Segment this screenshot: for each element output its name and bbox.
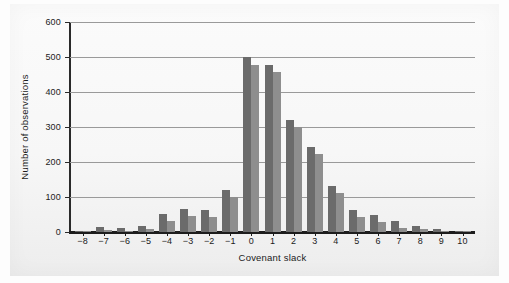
bar xyxy=(251,65,259,232)
bar xyxy=(294,127,302,232)
bar xyxy=(463,231,471,232)
x-tick-label: 0 xyxy=(241,236,262,246)
bar-group xyxy=(431,22,452,232)
bar-group xyxy=(304,22,325,232)
y-axis-title: Number of observations xyxy=(19,74,30,179)
bar xyxy=(370,215,378,232)
x-tick-label: −7 xyxy=(93,236,114,246)
x-tick-label: 10 xyxy=(452,236,473,246)
x-tick-label: 8 xyxy=(410,236,431,246)
bar xyxy=(209,217,217,232)
bar xyxy=(138,226,146,232)
bar xyxy=(159,214,167,232)
bar-group xyxy=(114,22,135,232)
bar-group xyxy=(156,22,177,232)
bar xyxy=(455,231,463,232)
bar xyxy=(349,210,357,232)
x-tick-label: −6 xyxy=(114,236,135,246)
bar xyxy=(441,231,449,232)
x-axis-tick-labels: −8−7−6−5−4−3−2−1012345678910 xyxy=(70,236,475,246)
y-tick-label-100: 100 xyxy=(45,192,61,202)
x-tick-label: 3 xyxy=(304,236,325,246)
bar-group xyxy=(199,22,220,232)
x-tick-label: −8 xyxy=(72,236,93,246)
x-tick-label: 1 xyxy=(262,236,283,246)
bar xyxy=(104,230,112,232)
bar xyxy=(117,228,125,232)
x-tick-label: −3 xyxy=(178,236,199,246)
y-tick-label-600: 600 xyxy=(45,17,61,27)
y-tick-label-300: 300 xyxy=(45,122,61,132)
bar xyxy=(399,228,407,232)
bar xyxy=(167,221,175,232)
bar xyxy=(307,147,315,232)
bar xyxy=(83,231,91,232)
x-tick-label: 9 xyxy=(431,236,452,246)
bar xyxy=(230,197,238,232)
bar-group xyxy=(178,22,199,232)
bar-group xyxy=(410,22,431,232)
bar xyxy=(328,186,336,232)
y-tick-label-400: 400 xyxy=(45,87,61,97)
x-tick-label: −5 xyxy=(135,236,156,246)
bar-group xyxy=(452,22,473,232)
bar xyxy=(96,227,104,232)
x-tick-label: 2 xyxy=(283,236,304,246)
bar xyxy=(75,231,83,232)
bar-group xyxy=(325,22,346,232)
bar-group xyxy=(262,22,283,232)
bar xyxy=(243,57,251,232)
bar-group xyxy=(93,22,114,232)
bar xyxy=(412,226,420,232)
x-tick-label: −4 xyxy=(156,236,177,246)
bar-group xyxy=(72,22,93,232)
x-tick-label: 5 xyxy=(346,236,367,246)
bar xyxy=(420,229,428,232)
bar xyxy=(222,190,230,232)
bar-group xyxy=(389,22,410,232)
bar xyxy=(180,209,188,232)
figure-container: Number of observations 01002003004005006… xyxy=(0,0,509,283)
plot-area: 0100200300400500600 xyxy=(70,22,475,232)
y-tick-label-200: 200 xyxy=(45,157,61,167)
bar xyxy=(378,222,386,232)
bar-group-container xyxy=(70,22,475,232)
bar xyxy=(201,210,209,232)
bar xyxy=(357,217,365,232)
bar-group xyxy=(220,22,241,232)
bar xyxy=(265,65,273,232)
x-tick-label: −2 xyxy=(199,236,220,246)
bar-group xyxy=(241,22,262,232)
x-tick-label: 4 xyxy=(325,236,346,246)
y-tick-label-0: 0 xyxy=(56,227,61,237)
x-tick-label: −1 xyxy=(220,236,241,246)
bar xyxy=(188,216,196,232)
y-tick-label-500: 500 xyxy=(45,52,61,62)
bar-group xyxy=(135,22,156,232)
bar xyxy=(146,229,154,232)
x-axis-title: Covenant slack xyxy=(70,252,475,263)
bar-group xyxy=(346,22,367,232)
bar xyxy=(336,193,344,232)
bar xyxy=(315,154,323,232)
bar-group xyxy=(368,22,389,232)
x-tick-label: 6 xyxy=(368,236,389,246)
x-tick-label: 7 xyxy=(389,236,410,246)
bar xyxy=(125,231,133,232)
bar-group xyxy=(283,22,304,232)
bar xyxy=(433,229,441,233)
bar xyxy=(391,221,399,232)
y-tick-0 xyxy=(65,232,70,233)
bar xyxy=(286,120,294,232)
bar xyxy=(273,72,281,232)
